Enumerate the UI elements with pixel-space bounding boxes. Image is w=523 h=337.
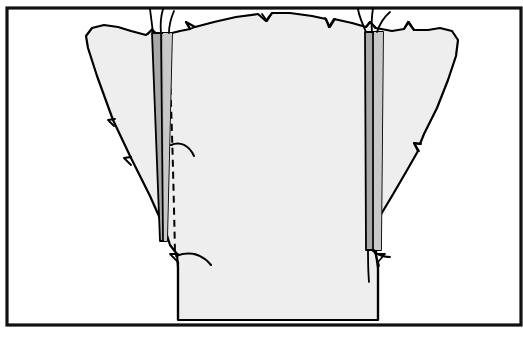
suture-thread [368, 250, 369, 282]
illustration-canvas [0, 0, 523, 337]
illustration-figure [0, 0, 523, 337]
